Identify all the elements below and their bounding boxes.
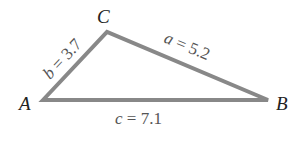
side-c-value: 7.1 <box>141 109 162 128</box>
side-c-eq: = <box>123 109 141 128</box>
vertex-label-b: B <box>276 93 288 114</box>
triangle-diagram: C A B b = 3.7 a = 5.2 c = 7.1 <box>0 0 305 141</box>
svg-text:b = 3.7: b = 3.7 <box>39 34 86 82</box>
vertex-label-c: C <box>97 6 110 27</box>
side-label-b: b = 3.7 <box>39 34 86 82</box>
side-label-c: c = 7.1 <box>115 109 162 128</box>
vertex-label-a: A <box>17 93 31 114</box>
